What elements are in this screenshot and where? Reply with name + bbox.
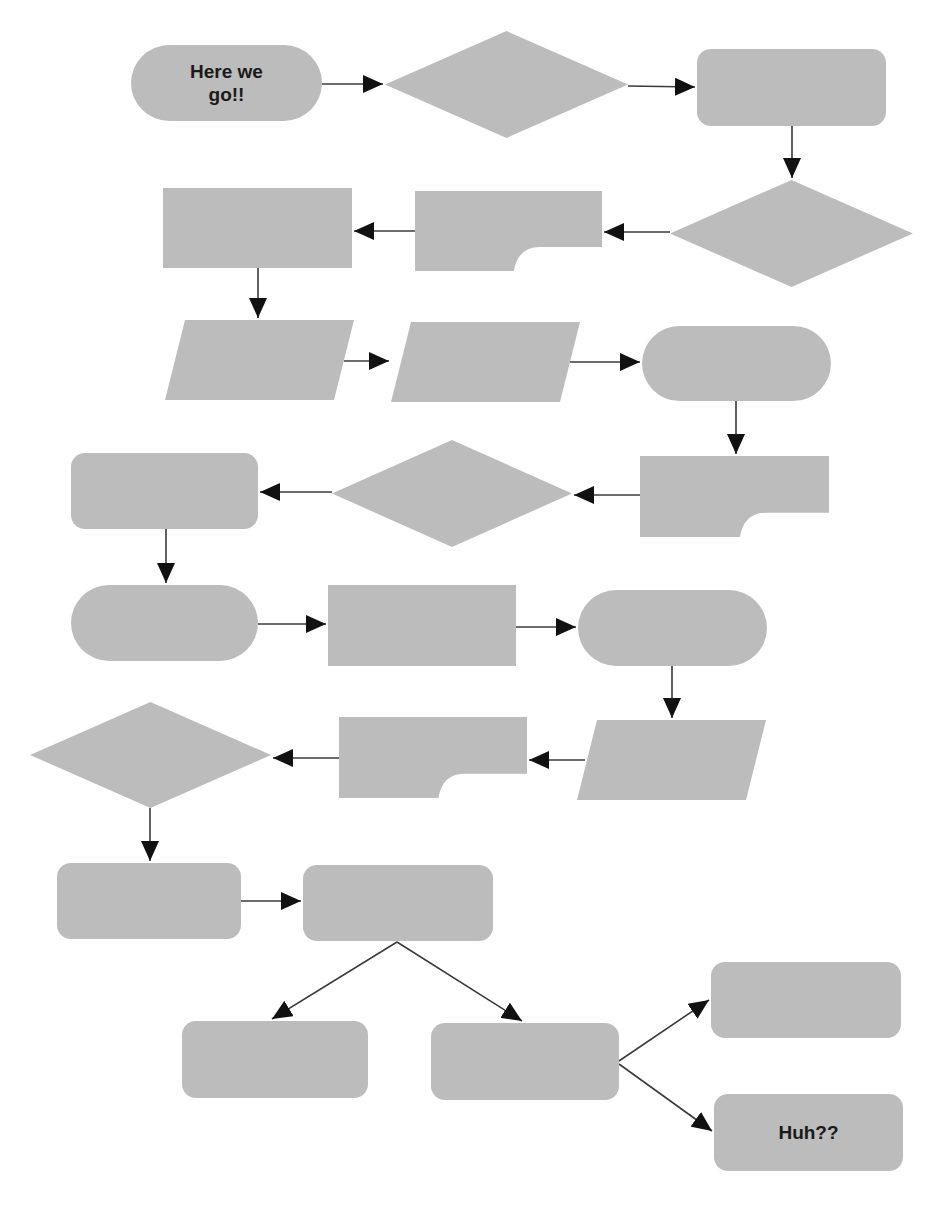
connector-arrow-n20-to-n22 [397,942,522,1021]
flowchart-node-terminal-n1[interactable] [131,45,322,121]
flowchart-node-diamond-n4[interactable] [670,180,913,287]
flowchart-node-diamond-n11[interactable] [332,440,572,547]
flowchart-node-rounded-rect-n3[interactable] [697,49,886,126]
flowchart-node-card-n10[interactable] [640,456,829,537]
flowchart-node-card-n5[interactable] [415,191,602,271]
flowchart-node-terminal-n15[interactable] [578,590,767,666]
connector-arrow-n22-to-n23 [619,1000,709,1061]
flowchart-node-rounded-rect-n23[interactable] [711,962,901,1038]
flowchart-node-parallelogram-n16[interactable] [577,720,766,800]
connector-arrow-n22-to-n24 [619,1064,712,1131]
flowchart-node-rect-n6[interactable] [163,188,352,268]
connector-arrow-n20-to-n21 [272,942,397,1019]
flowchart-node-parallelogram-n7[interactable] [165,320,354,400]
flowchart-node-diamond-n2[interactable] [385,31,628,138]
flowchart-node-rounded-rect-n19[interactable] [57,863,241,939]
flowchart-canvas [0,0,945,1207]
flowchart-node-rounded-rect-n21[interactable] [182,1021,368,1098]
flowchart-node-rounded-rect-n22[interactable] [431,1023,619,1100]
flowchart-node-diamond-n18[interactable] [30,702,271,808]
flowchart-node-rounded-rect-n20[interactable] [303,865,493,941]
connector-arrow-n2-to-n3 [628,86,695,87]
flowchart-node-terminal-n9[interactable] [642,326,831,401]
flowchart-node-rounded-rect-n24[interactable] [714,1094,903,1171]
node-layer [30,31,913,1171]
flowchart-node-rounded-rect-n12[interactable] [71,453,258,529]
flowchart-node-parallelogram-n8[interactable] [391,322,580,402]
flowchart-node-card-n17[interactable] [339,717,527,798]
flowchart-node-rect-n14[interactable] [328,585,516,666]
flowchart-node-terminal-n13[interactable] [71,585,258,661]
